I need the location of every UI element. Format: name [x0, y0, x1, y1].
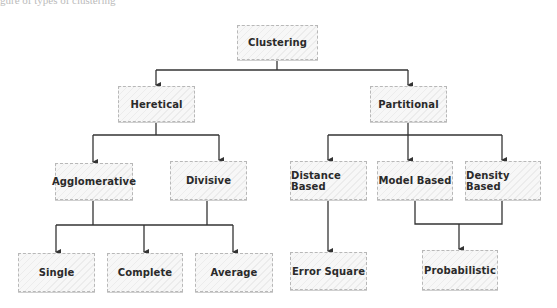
node-distance-based: Distance Based — [290, 161, 367, 200]
node-clustering: Clustering — [237, 25, 318, 60]
node-label: Average — [210, 267, 257, 278]
node-density-based: Density Based — [465, 161, 541, 200]
node-agglomerative: Agglomerative — [55, 163, 133, 200]
node-label: Single — [39, 267, 75, 278]
node-label: Probabilistic — [424, 265, 496, 276]
node-label: Partitional — [378, 99, 438, 110]
node-heretical: Heretical — [118, 86, 195, 122]
node-label: Divisive — [186, 175, 231, 186]
node-model-based: Model Based — [377, 161, 453, 200]
node-label: Heretical — [130, 99, 182, 110]
node-label: Error Square — [292, 266, 365, 277]
node-single: Single — [18, 253, 95, 292]
node-partitional: Partitional — [370, 86, 447, 122]
node-label: Distance Based — [291, 170, 366, 192]
node-probabilistic: Probabilistic — [422, 250, 498, 290]
node-average: Average — [195, 253, 273, 292]
node-label: Model Based — [378, 175, 451, 186]
node-error-square: Error Square — [290, 252, 367, 290]
node-label: Clustering — [248, 37, 307, 48]
node-label: Density Based — [466, 170, 540, 192]
node-divisive: Divisive — [170, 161, 247, 200]
node-complete: Complete — [107, 253, 183, 292]
node-label: Agglomerative — [52, 176, 136, 187]
node-label: Complete — [118, 267, 172, 278]
